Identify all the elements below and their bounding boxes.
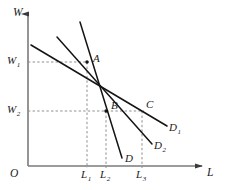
curve-label-d-text: D (125, 152, 133, 164)
y-tick-w2-text: W (7, 103, 16, 115)
x-tick-l2-subscript: 2 (107, 175, 111, 183)
point-label-c: C (146, 99, 153, 110)
x-tick-label-l2: L2 (100, 169, 110, 180)
curve-label-d1-text: D (169, 121, 177, 133)
origin-label: O (10, 168, 18, 180)
x-axis-label: L (207, 167, 213, 179)
point-marker-A (85, 60, 88, 63)
figure-canvas (0, 0, 225, 190)
curve-label-d1-subscript: 1 (177, 128, 181, 136)
curve-label-d2-subscript: 2 (162, 146, 166, 154)
axes-group (28, 14, 202, 166)
economics-demand-curve-figure: W L O W1 W2 L1 L2 L3 A B C D D2 D1 (0, 0, 225, 190)
x-tick-label-l1: L1 (81, 169, 91, 180)
x-tick-l1-subscript: 1 (88, 175, 92, 183)
y-tick-label-w1: W1 (7, 55, 20, 66)
point-label-b: B (111, 100, 118, 111)
y-tick-w1-text: W (7, 54, 16, 66)
point-label-a: A (93, 53, 100, 64)
point-marker-B (104, 109, 107, 112)
y-tick-label-w2: W2 (7, 104, 20, 115)
demand-curve-D (80, 22, 122, 158)
curve-label-d2-text: D (154, 139, 162, 151)
x-tick-l3-text: L (136, 168, 142, 180)
demand-curve-D2 (57, 37, 152, 144)
curve-label-d2: D2 (154, 140, 165, 151)
y-axis-label: W (13, 7, 23, 19)
curve-label-d1: D1 (169, 122, 180, 133)
x-tick-label-l3: L3 (136, 169, 146, 180)
x-tick-l1-text: L (81, 168, 87, 180)
point-markers-group (85, 60, 107, 112)
y-tick-w2-subscript: 2 (17, 110, 21, 118)
x-tick-l2-text: L (100, 168, 106, 180)
x-tick-l3-subscript: 3 (143, 175, 147, 183)
y-tick-w1-subscript: 1 (17, 61, 21, 69)
curve-label-d: D (125, 153, 133, 164)
demand-curves-group (31, 22, 167, 158)
